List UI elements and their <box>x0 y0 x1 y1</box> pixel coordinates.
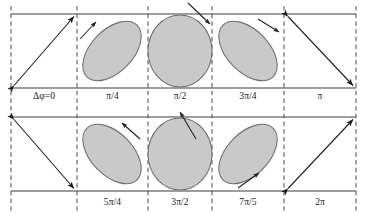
cell-label-5pi-over-4: 5π/4 <box>77 198 148 208</box>
cell-label-dphi-0: Δφ=0 <box>11 92 77 102</box>
cell-label-pi: π <box>284 92 356 102</box>
cell-label-7pi-over-5: 7π/5 <box>212 198 284 208</box>
cell-label-pi-over-2: π/2 <box>148 92 212 102</box>
polarization-ellipse-7pi-over-5 <box>208 114 288 195</box>
cell-label-pi-over-4: π/4 <box>77 92 148 102</box>
cell-label-3pi-over-2: 3π/2 <box>148 198 212 208</box>
cell-label-3pi-over-4: 3π/4 <box>212 92 284 102</box>
polarization-ellipse-5pi-over-4 <box>72 114 152 195</box>
rotation-arrow-pi-over-4 <box>80 22 96 39</box>
polarization-ellipse-3pi-over-2 <box>148 118 212 190</box>
rotation-arrow-3pi-over-4 <box>258 19 279 32</box>
figure-canvas <box>0 0 369 218</box>
polarization-ellipse-pi-over-4 <box>72 11 152 92</box>
linear-state-double-arrow-bottom-first <box>14 120 74 189</box>
polarization-ellipse-3pi-over-4 <box>208 11 288 92</box>
linear-state-double-arrow-pi <box>288 17 353 86</box>
linear-state-double-arrow-2pi <box>288 120 353 189</box>
cell-label-2pi: 2π <box>284 198 356 208</box>
polarization-ellipse-pi-over-2 <box>148 15 212 87</box>
linear-state-double-arrow-dphi-0 <box>14 17 74 86</box>
polarization-ellipse-figure: Δφ=0 π/4 π/2 3π/4 π 5π/4 3π/2 7π/5 2π <box>0 0 369 218</box>
